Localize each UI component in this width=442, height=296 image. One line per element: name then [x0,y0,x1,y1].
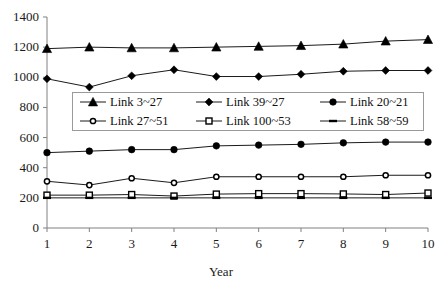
series-line [47,175,428,185]
plot-area [0,0,442,296]
legend-marker-open-square-icon [195,115,223,127]
y-axis-tick-label: 1200 [0,40,39,53]
legend-label: Link 58~59 [350,115,409,128]
legend-marker-open-circle-icon [79,115,107,127]
x-axis-tick-label: 7 [285,237,317,250]
legend-item: Link 100~53 [189,115,313,128]
data-point-marker [255,197,263,199]
series-link-20-21 [44,139,432,156]
x-axis-tick-label: 9 [370,237,402,250]
legend-label: Link 3~27 [110,96,162,109]
data-point-marker [43,75,51,83]
data-point-marker [170,66,178,74]
data-point-marker [255,142,262,149]
data-point-marker [255,73,263,81]
data-point-marker [256,174,261,179]
legend-label: Link 100~53 [226,115,291,128]
y-axis-tick-label: 400 [0,161,39,174]
data-point-marker [340,140,347,147]
x-axis-tick-label: 1 [31,237,63,250]
data-point-marker [212,73,220,81]
data-point-marker [382,139,389,146]
data-point-marker [43,197,51,199]
y-axis-tick-label: 1000 [0,70,39,83]
legend-sample-glyph [80,98,106,107]
data-point-marker [170,197,178,199]
series-line [47,193,428,196]
x-axis-tick-label: 6 [243,237,275,250]
data-point-marker [85,83,93,91]
series-link-39-27 [43,66,432,91]
data-point-marker [330,99,337,106]
data-point-marker [213,143,220,150]
data-point-marker [339,67,347,75]
data-point-marker [171,180,176,185]
y-axis-tick-label: 600 [0,131,39,144]
data-point-marker [339,197,347,199]
data-point-marker [340,191,346,197]
data-point-marker [425,173,430,178]
data-point-marker [86,148,93,155]
x-axis-tick-label: 3 [116,237,148,250]
data-point-marker [128,146,135,153]
data-point-marker [213,191,219,197]
series-link-58-59 [43,197,432,199]
data-point-marker [85,197,93,199]
data-point-marker [44,149,51,156]
line-chart: 1400120010008006004002000 12345678910 Ye… [0,0,442,296]
data-point-marker [425,139,432,146]
data-point-marker [424,67,432,75]
data-point-marker [298,141,305,148]
data-point-marker [128,72,136,80]
y-axis-tick-label: 200 [0,191,39,204]
x-axis-tick-label: 2 [73,237,105,250]
data-point-marker [383,192,389,198]
legend-label: Link 27~51 [110,115,169,128]
legend-marker-filled-diamond-icon [195,96,223,108]
series-line [47,40,428,49]
data-point-marker [90,118,95,123]
legend-item: Link 27~51 [73,115,189,128]
legend-item: Link 20~21 [313,96,425,109]
y-axis-tick-label: 800 [0,100,39,113]
legend-item: Link 39~27 [189,96,313,109]
legend-sample-glyph [320,99,346,106]
data-point-marker [382,67,390,75]
data-point-marker [297,70,305,78]
data-point-marker [298,191,304,197]
data-point-marker [383,173,388,178]
x-axis-tick-label: 4 [158,237,190,250]
data-point-marker [256,191,262,197]
legend-sample-glyph [320,120,346,122]
series-line [47,70,428,87]
data-point-marker [297,197,305,199]
series-link-3-27 [42,35,432,53]
legend: Link 3~27Link 39~27Link 20~21Link 27~51L… [72,92,424,131]
legend-sample-glyph [196,98,222,106]
legend-sample-glyph [80,118,106,123]
y-axis-tick-label: 0 [0,221,39,234]
data-point-marker [341,174,346,179]
data-point-marker [212,197,220,199]
data-point-marker [424,197,432,199]
data-point-marker [129,192,135,198]
data-point-marker [425,190,431,196]
legend-label: Link 20~21 [350,96,409,109]
data-point-marker [128,197,136,199]
series-link-27-51 [44,173,430,188]
x-axis-tick-label: 10 [412,237,442,250]
data-point-marker [171,146,178,153]
data-point-marker [382,197,390,199]
legend-sample-glyph [196,118,222,124]
legend-marker-filled-triangle-icon [79,96,107,108]
legend-item: Link 58~59 [313,115,425,128]
data-point-marker [206,118,212,124]
legend-label: Link 39~27 [226,96,285,109]
x-axis-tick-label: 8 [327,237,359,250]
data-point-marker [423,35,432,44]
data-point-marker [214,174,219,179]
data-point-marker [298,174,303,179]
series-line [47,142,428,153]
data-point-marker [205,98,213,106]
legend-marker-dash-icon [319,115,347,127]
